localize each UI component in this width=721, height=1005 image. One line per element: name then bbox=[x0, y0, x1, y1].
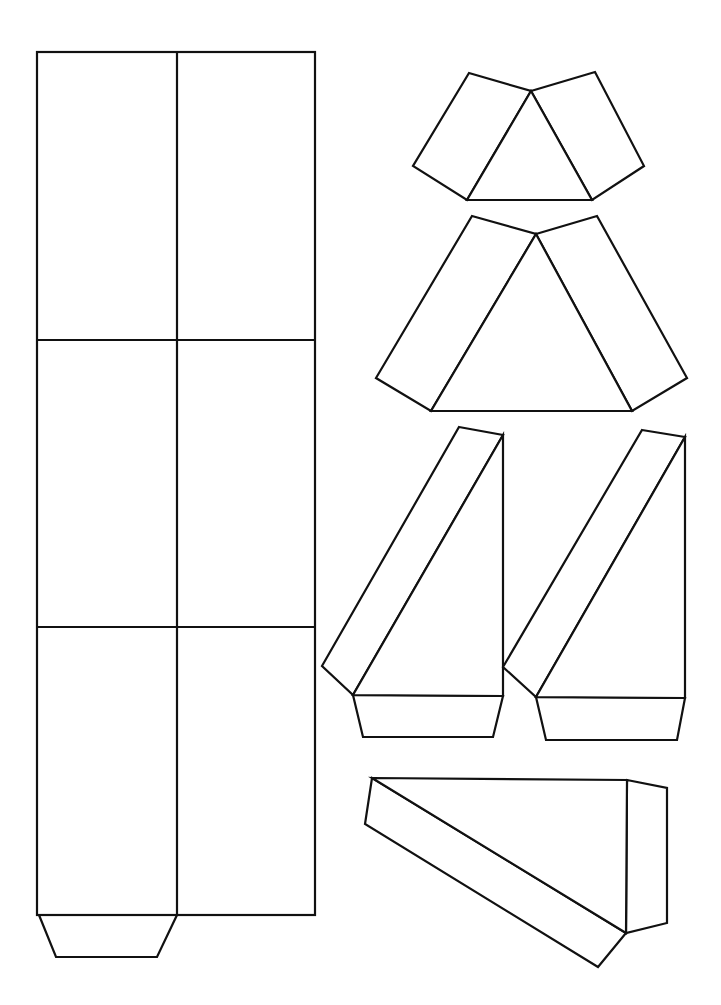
triangle-face bbox=[536, 437, 685, 698]
wedge-net-right bbox=[503, 430, 685, 740]
bottom-tab bbox=[39, 915, 177, 957]
template-canvas bbox=[0, 0, 721, 1005]
triangle-face bbox=[372, 778, 627, 933]
bottom-tab bbox=[536, 697, 685, 740]
side-tab bbox=[626, 780, 667, 933]
triangle-face bbox=[353, 435, 503, 696]
wedge-net-bottom bbox=[365, 778, 667, 967]
wedge-net-left bbox=[322, 427, 503, 737]
small-triangular-net bbox=[413, 72, 644, 200]
bottom-tab bbox=[353, 695, 503, 737]
rectangular-box-net bbox=[37, 52, 315, 957]
large-triangular-net bbox=[376, 216, 687, 411]
